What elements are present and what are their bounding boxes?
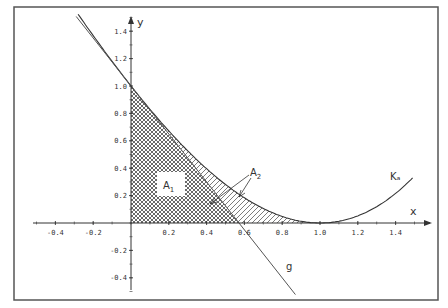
x-tick-label: -0.4 xyxy=(47,229,64,237)
y-tick-label: 0.8 xyxy=(114,110,127,118)
x-axis-label: x xyxy=(410,205,417,218)
line-g-label: g xyxy=(286,261,292,272)
x-tick-label: 1.0 xyxy=(314,229,327,237)
x-tick-label: 1.4 xyxy=(389,229,402,237)
y-tick-label: -0.4 xyxy=(110,274,127,282)
y-tick-label: 1.4 xyxy=(114,28,127,36)
y-axis-label: y xyxy=(137,16,144,29)
x-tick-label: 0.4 xyxy=(200,229,213,237)
x-tick-label: 0.8 xyxy=(276,229,289,237)
y-tick-label: 0.2 xyxy=(114,192,127,200)
y-tick-label: 0.6 xyxy=(114,137,127,145)
x-tick-label: 1.2 xyxy=(351,229,364,237)
x-tick-label: 0.2 xyxy=(162,229,175,237)
y-tick-label: 0.4 xyxy=(114,165,127,173)
math-diagram: -0.4-0.20.20.40.60.81.01.21.41.41.21.00.… xyxy=(0,0,448,308)
x-tick-label: 0.6 xyxy=(238,229,251,237)
x-tick-label: -0.2 xyxy=(85,229,102,237)
y-tick-label: 1.0 xyxy=(114,83,127,91)
frame-border xyxy=(14,7,438,300)
y-tick-label: 1.2 xyxy=(114,55,127,63)
y-tick-label: -0.2 xyxy=(110,247,127,255)
curve-k-label: Kₐ xyxy=(390,171,401,182)
